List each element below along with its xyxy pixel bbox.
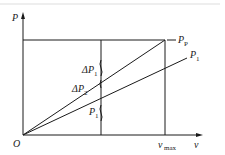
y-axis-arrow-icon [21, 12, 25, 19]
delta-p1-label: ΔP [81, 64, 94, 75]
power-velocity-diagram: P v O v max P P P 1 ΔP 1 [0, 0, 225, 155]
vmax-label-sub: max [164, 144, 177, 152]
vmax-label: v [158, 139, 163, 150]
delta-p2-label: ΔP [71, 83, 84, 94]
x-axis-arrow-icon [196, 133, 203, 137]
p1-sub: 1 [95, 112, 99, 120]
y-axis-label: P [11, 12, 18, 23]
x-axis-label: v [194, 139, 199, 150]
line-p1-label-sub: 1 [196, 55, 200, 63]
delta-p1-sub: 1 [94, 70, 98, 78]
line-p1 [23, 58, 187, 135]
origin-label: O [13, 138, 20, 149]
line-pp [23, 40, 165, 135]
line-pp-label-sub: P [184, 40, 188, 48]
delta-p2-sub: 2 [84, 89, 88, 97]
